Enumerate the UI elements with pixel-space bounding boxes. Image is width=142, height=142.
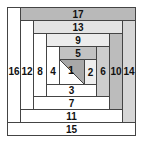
strip-10: 10	[109, 33, 123, 110]
log-cabin-quilt-diagram: 1716151413121110987654321	[0, 0, 142, 142]
strip-16: 16	[7, 7, 21, 136]
strip-11: 11	[20, 109, 123, 123]
strip-12: 12	[20, 20, 34, 123]
center-label: 1	[68, 64, 74, 76]
strip-6: 6	[96, 46, 110, 97]
strip-9: 9	[46, 33, 110, 47]
strip-3: 3	[46, 84, 97, 97]
strip-13: 13	[33, 20, 123, 34]
strip-5: 5	[59, 46, 97, 60]
strip-7: 7	[33, 96, 110, 110]
strip-17: 17	[20, 7, 136, 21]
strip-14: 14	[122, 20, 136, 123]
strip-2: 2	[84, 59, 97, 85]
strip-15: 15	[7, 122, 136, 136]
